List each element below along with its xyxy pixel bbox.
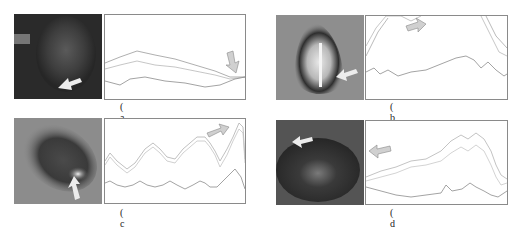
microscopy-image-b [276, 15, 364, 100]
arrow-icon [369, 145, 391, 158]
cell-image-a [14, 14, 102, 99]
panel-label-d: ( d ) [390, 207, 396, 230]
microscopy-image-c [14, 118, 102, 204]
panel-label-c: ( c ) [120, 207, 125, 230]
profile-chart-a [104, 14, 246, 100]
microscopy-image-a [14, 14, 102, 99]
arrow-icon [207, 124, 229, 137]
cell-image-d [276, 120, 364, 205]
profile-chart-c [104, 118, 246, 204]
profile-chart-d [365, 120, 508, 205]
cell-image-b [276, 15, 364, 100]
microscopy-image-d [276, 120, 364, 205]
cell-image-c [14, 118, 102, 204]
profile-chart-b [365, 15, 508, 100]
arrow-icon [226, 51, 239, 73]
